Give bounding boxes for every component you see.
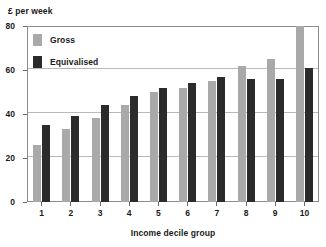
y-axis-title: £ per week bbox=[8, 6, 52, 16]
x-axis-tick-mark bbox=[41, 202, 42, 206]
x-axis-tick-label: 10 bbox=[290, 208, 319, 218]
x-axis-labels: 12345678910 bbox=[27, 208, 319, 218]
x-axis-tick-cell bbox=[231, 202, 260, 206]
x-axis-tick-mark bbox=[129, 202, 130, 206]
x-axis-tick-cell bbox=[290, 202, 319, 206]
y-axis-tick-label: 0 bbox=[0, 197, 15, 207]
legend-swatch-icon bbox=[33, 56, 42, 68]
x-axis-tick-cell bbox=[85, 202, 114, 206]
x-axis-tick-mark bbox=[304, 202, 305, 206]
x-axis-tick-cell bbox=[173, 202, 202, 206]
y-axis-tick-label: 80 bbox=[0, 21, 15, 31]
y-axis-tick-label: 20 bbox=[0, 153, 15, 163]
gridline bbox=[28, 112, 318, 113]
x-axis-tick-label: 5 bbox=[144, 208, 173, 218]
bar-chart: £ per week 020406080 12345678910 Income … bbox=[0, 0, 326, 247]
y-axis-tick-label: 60 bbox=[0, 65, 15, 75]
x-axis-tick-label: 6 bbox=[173, 208, 202, 218]
gridline bbox=[28, 156, 318, 157]
x-axis-tick-label: 9 bbox=[261, 208, 290, 218]
x-axis-tick-label: 8 bbox=[231, 208, 260, 218]
y-axis-tick-mark bbox=[23, 26, 27, 27]
x-axis-tick-label: 7 bbox=[202, 208, 231, 218]
x-axis-tick-cell bbox=[27, 202, 56, 206]
x-axis-tick-mark bbox=[70, 202, 71, 206]
x-axis-tick-label: 4 bbox=[115, 208, 144, 218]
x-axis-tick-mark bbox=[246, 202, 247, 206]
x-axis-tick-mark bbox=[158, 202, 159, 206]
chart-legend: GrossEquivalised bbox=[33, 31, 98, 75]
legend-label: Gross bbox=[50, 35, 75, 45]
x-axis-tick-cell bbox=[144, 202, 173, 206]
y-axis-tick-mark bbox=[23, 158, 27, 159]
y-axis-tick-mark bbox=[23, 114, 27, 115]
x-axis-tick-mark bbox=[216, 202, 217, 206]
x-axis-tick-cell bbox=[56, 202, 85, 206]
x-axis-tick-label: 3 bbox=[85, 208, 114, 218]
y-axis-tick-mark bbox=[23, 70, 27, 71]
x-axis-tick-mark bbox=[187, 202, 188, 206]
x-axis-tick-label: 2 bbox=[56, 208, 85, 218]
y-axis-tick-label: 40 bbox=[0, 109, 15, 119]
legend-item-gross: Gross bbox=[33, 31, 98, 48]
x-axis-tick-mark bbox=[275, 202, 276, 206]
x-axis-ticks bbox=[27, 202, 319, 206]
x-axis-title: Income decile group bbox=[27, 228, 319, 238]
legend-item-equivalised: Equivalised bbox=[33, 53, 98, 70]
legend-swatch-icon bbox=[33, 34, 42, 46]
x-axis-tick-cell bbox=[261, 202, 290, 206]
x-axis-tick-label: 1 bbox=[27, 208, 56, 218]
legend-label: Equivalised bbox=[50, 57, 98, 67]
x-axis-tick-cell bbox=[202, 202, 231, 206]
x-axis-tick-cell bbox=[115, 202, 144, 206]
x-axis-tick-mark bbox=[100, 202, 101, 206]
